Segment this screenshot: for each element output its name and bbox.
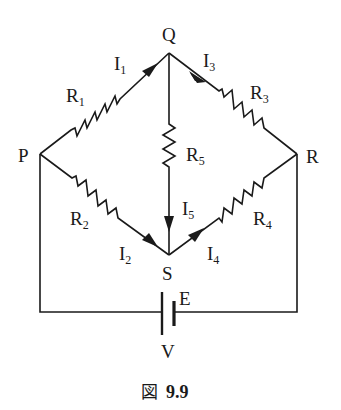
current-arrow-i2-icon [142, 233, 158, 247]
current-label-i2: I2 [119, 243, 131, 267]
node-label-s: S [162, 263, 173, 284]
current-label-i1: I1 [114, 53, 126, 77]
current-arrow-i5-icon [164, 216, 174, 232]
current-arrow-i1-icon [142, 63, 158, 77]
branch-p-s [40, 154, 169, 255]
resistor-label-r5: R5 [186, 144, 205, 168]
caption-prefix: 図 [141, 382, 158, 402]
wire-right [174, 154, 297, 312]
current-label-i3: I3 [203, 50, 215, 74]
node-label-r: R [306, 146, 319, 167]
current-label-i4: I4 [207, 243, 219, 267]
emf-label: E [179, 288, 191, 309]
node-label-q: Q [162, 24, 176, 45]
branch-p-q [40, 53, 169, 154]
caption-number: 9.9 [166, 382, 189, 402]
wire-left [40, 154, 162, 312]
resistor-r3 [169, 53, 297, 154]
current-label-i5: I5 [182, 198, 194, 222]
resistor-label-r3: R3 [250, 82, 269, 106]
branch-q-r [169, 53, 297, 154]
resistor-label-r1: R1 [66, 85, 85, 109]
node-label-p: P [18, 145, 29, 166]
resistor-label-r4: R4 [253, 208, 272, 232]
battery-icon [162, 292, 174, 335]
resistor-label-r2: R2 [70, 208, 89, 232]
voltage-label: V [161, 341, 175, 362]
branch-q-s [163, 53, 175, 255]
wheatstone-bridge-diagram: Q P R S R1 R2 R3 R4 R5 I1 I2 I3 I4 I5 E … [0, 0, 341, 410]
